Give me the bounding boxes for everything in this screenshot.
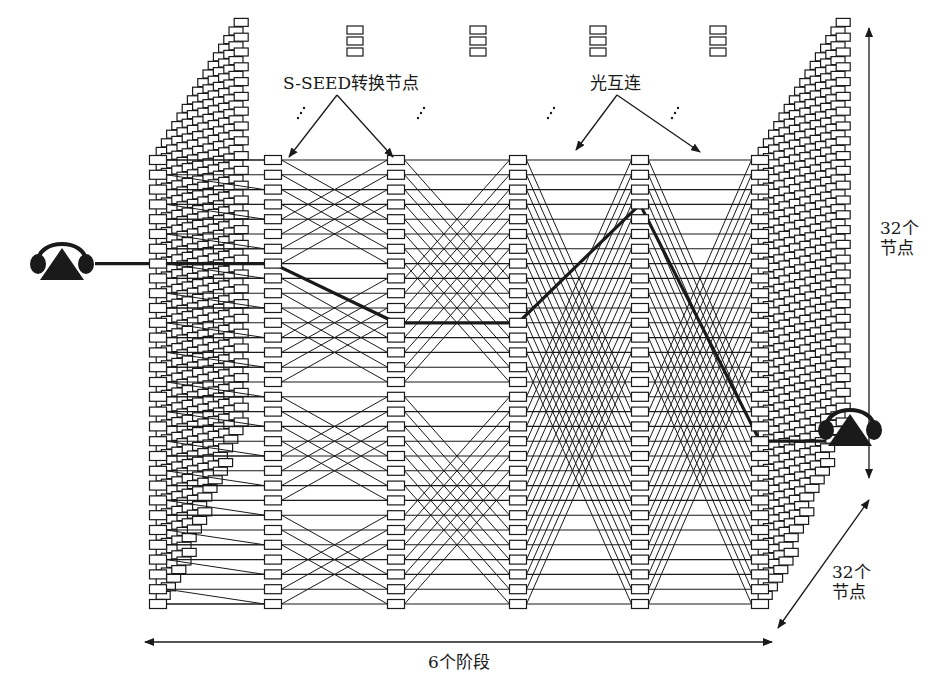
back-plane-node-left xyxy=(234,314,248,322)
switch-node-stage-4 xyxy=(510,392,527,401)
switch-node-stage-6 xyxy=(752,466,769,475)
switch-node-stage-4 xyxy=(510,437,527,446)
switch-node-stage-3 xyxy=(388,466,405,475)
switch-node-stage-6 xyxy=(752,156,769,165)
switch-node-stage-5 xyxy=(632,170,649,179)
arrow-to-interconnect-b xyxy=(617,95,700,152)
switch-node-stage-5 xyxy=(632,496,649,505)
switch-node-stage-5 xyxy=(632,585,649,594)
switch-node-stage-6 xyxy=(752,333,769,342)
back-plane-node-left xyxy=(234,63,248,71)
switch-node-stage-2 xyxy=(265,274,282,283)
back-plane-node-right xyxy=(795,516,809,524)
back-plane-node-left xyxy=(234,122,248,130)
back-plane-node-right xyxy=(836,107,850,115)
back-plane-node-left xyxy=(234,78,248,86)
switch-node-stage-1 xyxy=(150,555,167,564)
back-plane-node-left xyxy=(182,548,196,556)
switch-node-stage-2 xyxy=(265,585,282,594)
ellipsis-dot xyxy=(677,107,679,109)
back-plane-node-right xyxy=(836,152,850,160)
switch-node-stage-4 xyxy=(510,259,527,268)
stacked-node-top xyxy=(590,26,606,34)
back-plane-node-left xyxy=(198,508,212,516)
switch-node-stage-3 xyxy=(388,437,405,446)
back-plane-node-right xyxy=(836,270,850,278)
switch-node-stage-5 xyxy=(632,318,649,327)
switch-node-stage-6 xyxy=(752,511,769,520)
back-plane-node-left xyxy=(234,166,248,174)
back-plane-node-left xyxy=(219,459,233,467)
back-plane-node-right xyxy=(836,122,850,130)
switch-node-stage-1 xyxy=(150,200,167,209)
switch-node-stage-6 xyxy=(752,481,769,490)
switch-node-stage-4 xyxy=(510,422,527,431)
switch-node-stage-4 xyxy=(510,570,527,579)
back-plane-node-right xyxy=(836,166,850,174)
switch-node-stage-2 xyxy=(265,600,282,609)
switch-node-stage-2 xyxy=(265,511,282,520)
stacked-planes-back xyxy=(156,18,850,599)
back-plane-node-right xyxy=(836,359,850,367)
back-plane-node-left xyxy=(234,33,248,41)
switch-node-stage-5 xyxy=(632,570,649,579)
switch-node-stage-1 xyxy=(150,378,167,387)
switch-node-stage-5 xyxy=(632,555,649,564)
back-plane-node-left xyxy=(234,285,248,293)
label-switch-nodes: S-SEED转换节点 xyxy=(283,73,419,93)
back-plane-node-left xyxy=(234,48,248,56)
back-plane-node-right xyxy=(836,344,850,352)
switch-node-stage-1 xyxy=(150,585,167,594)
back-plane-node-right xyxy=(821,459,835,467)
switch-node-stage-3 xyxy=(388,555,405,564)
back-plane-node-right xyxy=(789,525,803,533)
back-plane-node-left xyxy=(182,534,196,542)
switch-node-stage-3 xyxy=(388,378,405,387)
ellipsis-dot xyxy=(550,112,552,114)
back-plane-node-left xyxy=(234,344,248,352)
switch-node-stage-3 xyxy=(388,585,405,594)
switch-node-stage-2 xyxy=(265,526,282,535)
stacked-node-top xyxy=(347,48,363,56)
switch-node-stage-3 xyxy=(388,289,405,298)
switch-node-stage-2 xyxy=(265,259,282,268)
back-plane-node-left xyxy=(234,403,248,411)
back-plane-node-right xyxy=(836,137,850,145)
switch-node-stage-5 xyxy=(632,511,649,520)
switch-node-stage-4 xyxy=(510,156,527,165)
back-plane-node-right xyxy=(836,48,850,56)
switch-node-stage-1 xyxy=(150,244,167,253)
back-plane-node-left xyxy=(234,196,248,204)
switch-node-stage-6 xyxy=(752,363,769,372)
back-plane-node-left xyxy=(234,107,248,115)
switch-node-stage-2 xyxy=(265,570,282,579)
back-plane-node-right xyxy=(769,574,783,582)
label-vertical-count: 32个 节点 xyxy=(880,218,919,258)
back-plane-node-left xyxy=(234,152,248,160)
back-plane-node-right xyxy=(836,181,850,189)
switch-node-stage-5 xyxy=(632,259,649,268)
switch-node-stage-4 xyxy=(510,585,527,594)
back-plane-node-left xyxy=(172,566,186,574)
switch-node-stage-2 xyxy=(265,348,282,357)
stacked-node-top xyxy=(710,48,726,56)
switch-node-stage-4 xyxy=(510,407,527,416)
switch-node-stage-5 xyxy=(632,200,649,209)
back-plane-node-right xyxy=(800,493,814,501)
switch-node-stage-3 xyxy=(388,540,405,549)
switch-node-stage-5 xyxy=(632,363,649,372)
switch-node-stage-6 xyxy=(752,585,769,594)
ellipsis-dot xyxy=(423,107,425,109)
stacked-node-top xyxy=(470,37,486,45)
ellipsis-dot xyxy=(553,107,555,109)
switch-node-stage-3 xyxy=(388,348,405,357)
back-plane-node-left xyxy=(234,374,248,382)
back-plane-node-right xyxy=(836,374,850,382)
switch-node-stage-3 xyxy=(388,259,405,268)
switch-node-stage-1 xyxy=(150,170,167,179)
switch-node-stage-6 xyxy=(752,555,769,564)
switch-node-stage-2 xyxy=(265,392,282,401)
switch-node-stage-6 xyxy=(752,200,769,209)
back-plane-node-right xyxy=(836,388,850,396)
back-plane-node-left xyxy=(193,516,207,524)
